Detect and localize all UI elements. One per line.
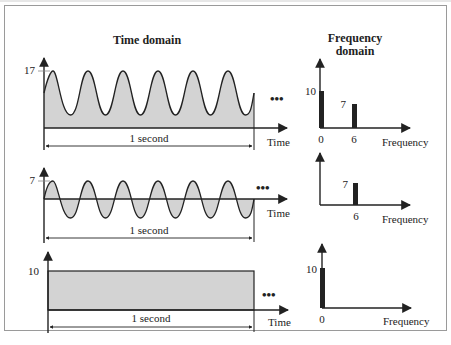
freq-plot-constant: 10 0 Frequency: [306, 244, 430, 327]
bar-value-label-10-3: 10: [306, 263, 318, 275]
duration-label-2: 1 second: [130, 224, 169, 236]
x-tick-6: 6: [351, 133, 357, 145]
time-plot-composite: 17 ••• 1 second Time: [24, 58, 290, 150]
duration-label-3: 1 second: [132, 312, 171, 324]
frequency-domain-title-line1: Frequency: [328, 31, 382, 45]
time-plot-sinusoid: 7 ••• 1 second Time: [30, 168, 290, 243]
freq-bar-6-hz-2: [353, 183, 358, 205]
freq-bar-0-hz-3: [320, 268, 325, 308]
frequency-domain-title-line2: domain: [336, 44, 375, 58]
freq-bar-0-hz: [319, 91, 324, 128]
freq-bar-6-hz: [352, 104, 357, 128]
x-tick-0-3: 0: [319, 313, 325, 325]
bar-value-label-7: 7: [341, 98, 347, 110]
freq-plot-sinusoid: 7 6 Frequency: [320, 153, 429, 225]
constant-signal-area: [48, 271, 254, 310]
x-tick-0: 0: [318, 133, 324, 145]
bar-value-label-7-2: 7: [343, 178, 349, 190]
freq-axis-label-2: Frequency: [382, 213, 429, 225]
x-tick-6-2: 6: [353, 210, 359, 222]
freq-axis-label-1: Frequency: [382, 136, 429, 148]
continuation-dots-1: •••: [270, 91, 284, 106]
time-plot-constant: 10 ••• 1 second Time: [28, 252, 291, 333]
time-axis-label-3: Time: [268, 316, 291, 328]
time-frequency-diagram: Time domain Frequency domain 17 ••• 1 se…: [0, 0, 451, 345]
duration-label-1: 1 second: [130, 132, 169, 144]
time-axis-label-2: Time: [267, 207, 290, 219]
freq-axis-label-3: Frequency: [383, 315, 430, 327]
y-tick-label-2: 7: [30, 174, 36, 186]
continuation-dots-3: •••: [262, 287, 276, 302]
time-domain-title: Time domain: [113, 33, 181, 47]
y-tick-label-1: 17: [24, 64, 36, 76]
diagram-canvas: Time domain Frequency domain 17 ••• 1 se…: [0, 0, 451, 345]
freq-plot-composite: 10 7 0 6 Frequency: [305, 59, 429, 148]
continuation-dots-2: •••: [256, 180, 270, 195]
y-tick-label-3: 10: [28, 265, 40, 277]
bar-value-label-10: 10: [305, 85, 317, 97]
time-axis-label-1: Time: [267, 136, 290, 148]
